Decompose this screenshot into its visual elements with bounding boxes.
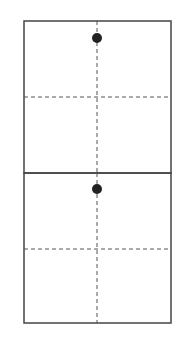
diagram-canvas: [0, 0, 177, 364]
top-panel: [24, 21, 171, 173]
bottom-panel: [24, 173, 171, 323]
top-panel-dot: [92, 33, 102, 43]
bottom-panel-dot: [92, 184, 102, 194]
